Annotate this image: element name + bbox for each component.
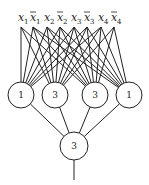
hidden-node-3: 3: [82, 82, 108, 108]
svg-text:3: 3: [90, 18, 94, 26]
node-threshold-label: 1: [18, 90, 24, 100]
svg-text:4: 4: [104, 18, 109, 26]
svg-text:2: 2: [63, 18, 67, 26]
input-label-x2: x2: [44, 11, 54, 26]
input-edges: [21, 27, 126, 87]
svg-text:2: 2: [50, 18, 54, 26]
node-threshold-label: 1: [126, 90, 132, 100]
svg-text:4: 4: [117, 18, 122, 26]
input-label-x1: x1: [18, 11, 28, 26]
svg-text:1: 1: [24, 18, 28, 26]
input-label-nx3: x3: [84, 11, 94, 26]
input-labels: x1x1x2x2x3x3x4x4: [18, 11, 122, 26]
input-label-x3: x3: [71, 11, 81, 26]
output-node: 3: [60, 132, 88, 160]
hidden-node-1: 1: [8, 82, 34, 108]
input-label-nx1: x1: [30, 11, 40, 26]
threshold-network-diagram: 13313 x1x1x2x2x3x3x4x4: [0, 0, 149, 185]
input-label-nx4: x4: [111, 11, 122, 26]
svg-text:1: 1: [36, 18, 40, 26]
svg-text:3: 3: [77, 18, 81, 26]
node-threshold-label: 3: [71, 141, 77, 151]
edge-h3-to-out: [79, 107, 90, 133]
hidden-node-4: 1: [116, 82, 142, 108]
edge-h1-to-out: [30, 104, 64, 136]
node-threshold-label: 3: [92, 90, 98, 100]
node-threshold-label: 3: [52, 90, 58, 100]
nodes: 13313: [8, 82, 142, 160]
input-label-x4: x4: [98, 11, 109, 26]
hidden-node-2: 3: [42, 82, 68, 108]
input-label-nx2: x2: [57, 11, 67, 26]
edge-h2-to-out: [60, 107, 70, 133]
